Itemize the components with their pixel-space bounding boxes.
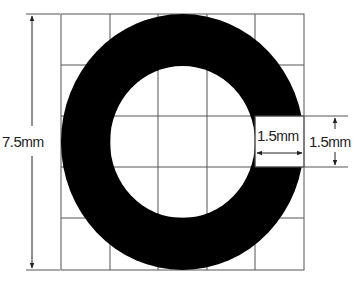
gap-width-unit: mm	[276, 128, 298, 144]
height-unit: mm	[21, 134, 43, 150]
gap-height-unit: mm	[328, 134, 350, 150]
height-value: 7.5	[2, 133, 21, 150]
gap-height-label: 1.5mm	[309, 134, 351, 149]
gap-width-label: 1.5mm	[257, 128, 299, 143]
height-label: 7.5mm	[2, 134, 44, 149]
gap-width-value: 1.5	[257, 127, 276, 144]
gap-height-value: 1.5	[309, 133, 328, 150]
